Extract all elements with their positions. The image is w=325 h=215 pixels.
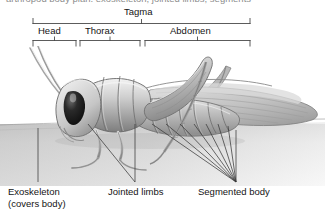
leader-jointed-limbs-a	[88, 124, 135, 182]
callout-exoskeleton-line2: (covers body)	[8, 198, 66, 210]
leader-lines	[0, 120, 325, 186]
segment-label-abdomen: Abdomen	[170, 25, 211, 36]
callout-jointed-limbs-line1: Jointed limbs	[108, 186, 163, 198]
callout-exoskeleton: Exoskeleton (covers body)	[8, 186, 66, 209]
segment-label-head: Head	[38, 25, 61, 36]
callout-segmented-body: Segmented body	[198, 186, 270, 198]
figure-root: arthropod body plan: exoskeleton, jointe…	[0, 0, 325, 215]
leader-segmented-body-fan	[152, 124, 236, 182]
callout-jointed-limbs: Jointed limbs	[108, 186, 163, 198]
callout-exoskeleton-line1: Exoskeleton	[8, 186, 66, 198]
antennae	[30, 46, 62, 94]
segment-label-thorax: Thorax	[85, 25, 115, 36]
callout-segmented-body-line1: Segmented body	[198, 186, 270, 198]
tagma-label: Tagma	[124, 6, 153, 17]
